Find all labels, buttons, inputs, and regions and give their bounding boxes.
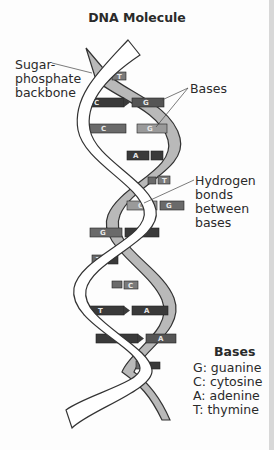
svg-text:G: G xyxy=(147,125,153,133)
base-pair-2: C G xyxy=(84,98,164,107)
base-pair-10: T A xyxy=(84,306,168,315)
backbone-label-line-1: Sugar- xyxy=(15,58,81,72)
svg-text:G: G xyxy=(143,99,149,107)
bases-legend: Bases G: guanine C: cytosine A: adenine … xyxy=(193,345,262,417)
legend-item-thymine: T: thymine xyxy=(193,403,262,417)
hydrogen-bonds-label-line-1: Hydrogen xyxy=(195,174,256,188)
svg-text:G: G xyxy=(166,202,172,210)
base-pair-5: T xyxy=(148,176,170,185)
hydrogen-bonds-label-line-4: bases xyxy=(195,216,256,230)
svg-text:A: A xyxy=(144,307,150,315)
bases-callout-line-1 xyxy=(162,88,188,100)
svg-text:A: A xyxy=(133,152,139,160)
base-pair-9: C xyxy=(112,281,138,290)
hydrogen-bonds-label: Hydrogen bonds between bases xyxy=(195,174,256,230)
svg-text:C: C xyxy=(128,282,133,290)
svg-text:A: A xyxy=(158,335,164,343)
hydrogen-bonds-label-line-3: between xyxy=(195,202,256,216)
backbone-label-line-3: backbone xyxy=(15,86,81,100)
svg-text:G: G xyxy=(100,229,106,237)
svg-text:T: T xyxy=(98,307,103,315)
svg-text:T: T xyxy=(117,73,122,81)
legend-item-cytosine: C: cytosine xyxy=(193,375,262,389)
hydrogen-bonds-label-line-2: bonds xyxy=(195,188,256,202)
base-pair-4: A xyxy=(127,151,163,160)
backbone-label: Sugar- phosphate backbone xyxy=(15,58,81,100)
backbone-label-line-2: phosphate xyxy=(15,72,81,86)
svg-text:C: C xyxy=(101,125,106,133)
legend-title: Bases xyxy=(193,345,262,359)
base-pair-3: C G xyxy=(88,124,167,133)
legend-item-adenine: A: adenine xyxy=(193,389,262,403)
bases-label: Bases xyxy=(190,82,227,96)
legend-item-guanine: G: guanine xyxy=(193,361,262,375)
svg-text:T: T xyxy=(162,177,167,185)
